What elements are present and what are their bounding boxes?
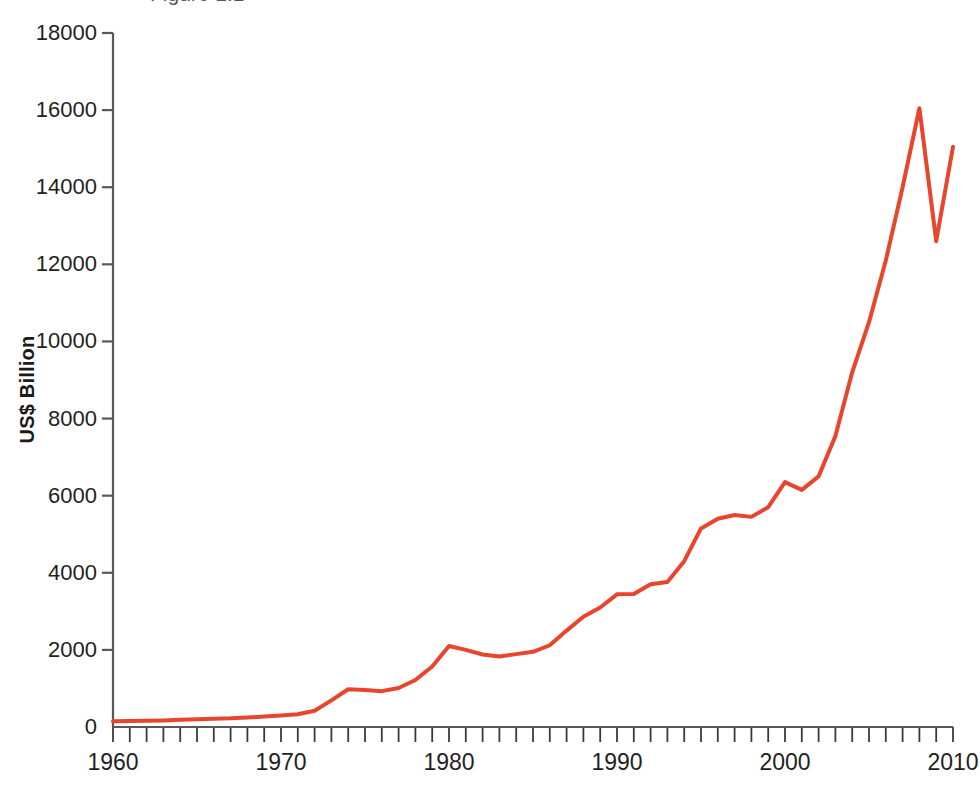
y-axis-tick-label: 4000 — [11, 560, 97, 586]
plot-area — [0, 0, 980, 794]
x-axis-tick-label: 2010 — [908, 749, 980, 776]
data-series-line — [113, 108, 953, 721]
y-axis-tick-label: 18000 — [11, 20, 97, 46]
y-axis-title: US$ Billion — [16, 290, 39, 490]
clipped-caption-region: Figure 1.1 — [0, 0, 980, 9]
clipped-caption-text: Figure 1.1 — [150, 0, 245, 6]
y-axis-tick-label: 2000 — [11, 637, 97, 663]
line-chart: Figure 1.1 US$ Billion 18000160001400012… — [0, 0, 980, 794]
x-axis-tick-label: 1990 — [572, 749, 662, 776]
y-axis-major-ticks — [102, 33, 113, 650]
x-axis-tick-label: 1980 — [404, 749, 494, 776]
y-axis-tick-label: 8000 — [11, 406, 97, 432]
y-axis-tick-label: 14000 — [11, 174, 97, 200]
y-axis-tick-label: 0 — [11, 714, 97, 740]
x-axis-minor-ticks — [113, 727, 953, 742]
x-axis-tick-label: 2000 — [740, 749, 830, 776]
y-axis-tick-label: 12000 — [11, 251, 97, 277]
y-axis-tick-label: 10000 — [11, 328, 97, 354]
x-axis-tick-label: 1960 — [68, 749, 158, 776]
y-axis-tick-label: 16000 — [11, 97, 97, 123]
x-axis-tick-label: 1970 — [236, 749, 326, 776]
y-axis-tick-label: 6000 — [11, 483, 97, 509]
